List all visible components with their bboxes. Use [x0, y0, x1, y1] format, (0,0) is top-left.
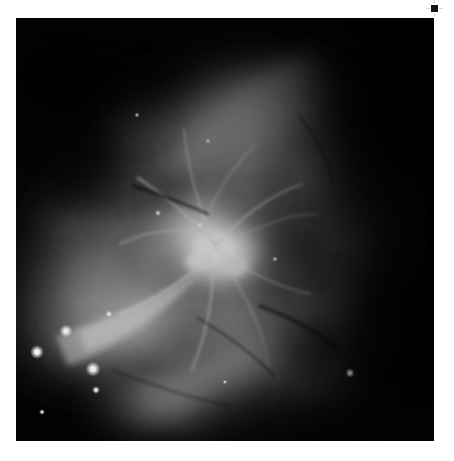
top-right-registration-mark — [430, 4, 439, 13]
nebula-render — [16, 18, 434, 441]
grayscale-nebula-image — [16, 18, 434, 441]
image-grain — [16, 18, 434, 441]
figure-canvas — [0, 0, 454, 461]
